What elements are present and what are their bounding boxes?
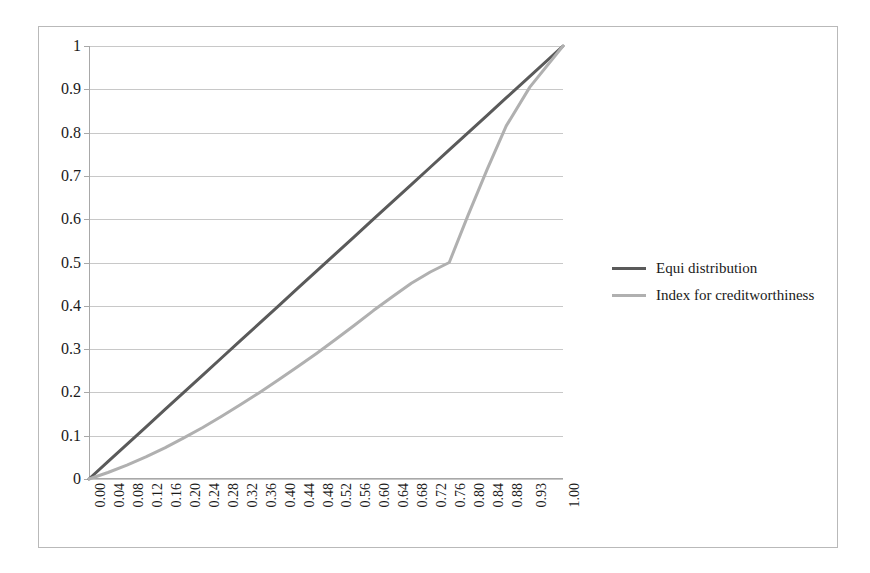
x-axis-tick-label: 0.20 xyxy=(189,483,203,508)
x-axis-tick-label: 0.24 xyxy=(208,483,222,508)
legend-item-equi-distribution: Equi distribution xyxy=(612,255,827,282)
x-axis-tick-label: 0.44 xyxy=(303,483,317,508)
x-axis-tick-label: 0.68 xyxy=(416,483,430,508)
line-equi-distribution xyxy=(89,46,563,479)
legend-item-index-creditworthiness: Index for creditworthiness xyxy=(612,282,827,309)
y-axis-tick-label: 0.9 xyxy=(61,81,81,97)
x-axis-tick-label: 0.08 xyxy=(132,483,146,508)
x-axis-tick-label: 0.40 xyxy=(284,483,298,508)
chart-frame: 00.10.20.30.40.50.60.70.80.91 0.000.040.… xyxy=(38,26,838,548)
legend-label-equi-distribution: Equi distribution xyxy=(656,261,757,276)
x-axis-tick-label: 0.93 xyxy=(535,483,549,508)
x-axis-tick-label: 0.32 xyxy=(246,483,260,508)
y-axis-tick-label: 0.6 xyxy=(61,211,81,227)
x-axis-tick-label: 0.48 xyxy=(322,483,336,508)
y-axis-tick-label: 0.2 xyxy=(61,384,81,400)
x-axis-tick-label: 0.56 xyxy=(359,483,373,508)
chart-legend: Equi distribution Index for creditworthi… xyxy=(612,255,827,309)
y-axis-tick-label: 0.4 xyxy=(61,298,81,314)
series-lines xyxy=(89,46,563,479)
x-axis-labels: 0.000.040.080.120.160.200.240.280.320.36… xyxy=(89,479,563,545)
x-axis-tick-label: 0.64 xyxy=(397,483,411,508)
x-axis-tick-label: 0.80 xyxy=(473,483,487,508)
legend-swatch-icon-index-creditworthiness xyxy=(612,294,646,297)
x-axis-tick-label: 0.16 xyxy=(170,483,184,508)
x-axis-tick-label: 0.28 xyxy=(227,483,241,508)
legend-swatch-icon-equi-distribution xyxy=(612,267,646,270)
x-axis-tick-label: 0.52 xyxy=(340,483,354,508)
y-axis-tick-label: 1 xyxy=(73,38,81,54)
x-axis-tick-label: 0.00 xyxy=(94,483,108,508)
x-axis-tick-label: 0.04 xyxy=(113,483,127,508)
y-axis-tick-label: 0.8 xyxy=(61,125,81,141)
y-axis-tick-label: 0.5 xyxy=(61,255,81,271)
y-axis-tick-label: 0.7 xyxy=(61,168,81,184)
y-axis-tick-label: 0.3 xyxy=(61,341,81,357)
legend-label-index-creditworthiness: Index for creditworthiness xyxy=(656,288,814,303)
x-axis-tick-label: 0.60 xyxy=(378,483,392,508)
plot-area: 00.10.20.30.40.50.60.70.80.91 xyxy=(89,46,563,479)
x-axis-tick-label: 0.88 xyxy=(511,483,525,508)
y-axis-tick-label: 0 xyxy=(73,471,81,487)
x-axis-tick-label: 0.72 xyxy=(435,483,449,508)
x-axis-tick-label: 0.12 xyxy=(151,483,165,508)
y-axis-tick-label: 0.1 xyxy=(61,428,81,444)
x-axis-tick-label: 1.00 xyxy=(568,483,582,508)
x-axis-tick-label: 0.84 xyxy=(492,483,506,508)
x-axis-tick-label: 0.36 xyxy=(265,483,279,508)
x-axis-tick-label: 0.76 xyxy=(454,483,468,508)
